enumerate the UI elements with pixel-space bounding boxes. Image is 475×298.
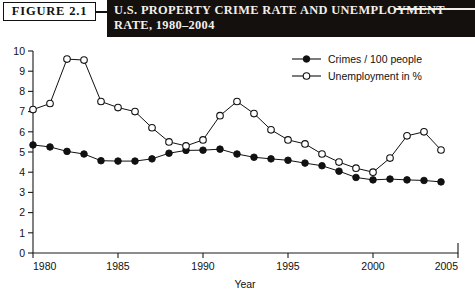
data-point-unemployment-1998 [336,159,343,166]
data-point-crimes-2001 [387,176,394,183]
data-point-crimes-1984 [98,157,105,164]
data-point-unemployment-1985 [115,104,122,111]
y-tick-label-0: 0 [19,247,25,259]
figure-header-band: FIGURE 2.1 U.S. PROPERTY CRIME RATE AND … [0,0,475,40]
y-axis-ticks [28,51,33,253]
data-point-unemployment-1989 [183,143,190,150]
data-point-unemployment-1992 [234,98,241,105]
data-point-crimes-1988 [166,150,173,157]
data-point-crimes-1980 [30,142,37,149]
figure-title-banner: U.S. PROPERTY CRIME RATE AND UNEMPLOYMEN… [107,0,475,37]
banner-decorative-rule [395,8,475,10]
y-tick-label-1: 1 [19,227,25,239]
data-point-crimes-1998 [336,168,343,175]
data-point-crimes-2000 [370,177,377,184]
data-point-crimes-2003 [421,177,428,184]
data-point-crimes-1997 [319,162,326,169]
data-point-crimes-2004 [438,179,445,186]
x-tick-label-2005: 2005 [435,260,459,272]
y-tick-label-3: 3 [19,186,25,198]
data-point-crimes-1983 [81,151,88,158]
y-tick-label-10: 10 [13,45,25,57]
data-point-unemployment-1996 [302,141,309,148]
data-point-unemployment-1999 [353,165,360,172]
data-point-unemployment-1994 [268,126,275,133]
data-point-unemployment-1981 [47,100,54,107]
y-tick-label-7: 7 [19,105,25,117]
data-point-unemployment-2001 [387,155,394,162]
chart-legend: Crimes / 100 people Unemployment in % [292,53,422,82]
y-tick-label-8: 8 [19,85,25,97]
legend-marker-unemployment [303,73,310,80]
chart-container: 012345678910 198019851990199520002005 Ye… [0,40,475,298]
data-point-unemployment-1986 [132,108,139,115]
figure-title-line-1: U.S. PROPERTY CRIME RATE AND UNEMPLOYMEN… [114,3,469,18]
data-point-crimes-1990 [200,147,207,154]
data-point-crimes-1991 [217,146,224,153]
x-tick-label-1990: 1990 [191,260,215,272]
data-point-crimes-1994 [268,156,275,163]
data-point-unemployment-1984 [98,98,105,105]
x-tick-label-2000: 2000 [361,260,385,272]
y-tick-label-5: 5 [19,146,25,158]
y-axis-tick-labels: 012345678910 [13,45,25,259]
data-point-crimes-1985 [115,158,122,165]
data-point-unemployment-2004 [438,147,445,154]
legend-label-crimes: Crimes / 100 people [328,53,422,65]
legend-marker-crimes [303,56,310,63]
data-point-crimes-2002 [404,177,411,184]
x-axis-ticks [33,253,458,258]
data-point-unemployment-1982 [64,56,71,63]
data-point-unemployment-1995 [285,137,292,144]
data-point-unemployment-1993 [251,110,258,117]
data-point-crimes-1995 [285,157,292,164]
data-point-unemployment-1991 [217,112,224,119]
data-point-crimes-1993 [251,154,258,161]
x-axis-title: Year [234,278,256,290]
data-point-crimes-1987 [149,156,156,163]
data-point-crimes-1992 [234,151,241,158]
data-point-unemployment-1990 [200,137,207,144]
data-point-unemployment-1980 [30,106,37,113]
y-tick-label-9: 9 [19,65,25,77]
y-tick-label-2: 2 [19,206,25,218]
x-tick-label-1995: 1995 [276,260,300,272]
data-point-unemployment-1997 [319,151,326,158]
x-axis-tick-labels: 198019851990199520002005 [33,260,458,272]
data-point-unemployment-1983 [81,57,88,64]
figure-number-label: FIGURE 2.1 [12,4,87,19]
data-point-crimes-1981 [47,144,54,151]
line-chart-plot: 012345678910 198019851990199520002005 Ye… [0,40,475,298]
figure-title-line-2: RATE, 1980–2004 [114,18,469,33]
y-tick-label-6: 6 [19,126,25,138]
data-point-unemployment-1988 [166,139,173,146]
data-point-crimes-1999 [353,174,360,181]
series-crimes [30,142,445,186]
x-tick-label-1985: 1985 [106,260,130,272]
data-point-crimes-1982 [64,148,71,155]
legend-label-unemployment: Unemployment in % [328,70,422,82]
data-point-crimes-1986 [132,158,139,165]
data-point-unemployment-2002 [404,133,411,140]
figure-number-box: FIGURE 2.1 [3,2,96,21]
x-tick-label-1980: 1980 [33,260,57,272]
data-point-unemployment-2000 [370,169,377,176]
y-tick-label-4: 4 [19,166,25,178]
data-point-unemployment-1987 [149,124,156,131]
data-point-crimes-1996 [302,160,309,167]
data-point-unemployment-2003 [421,129,428,136]
